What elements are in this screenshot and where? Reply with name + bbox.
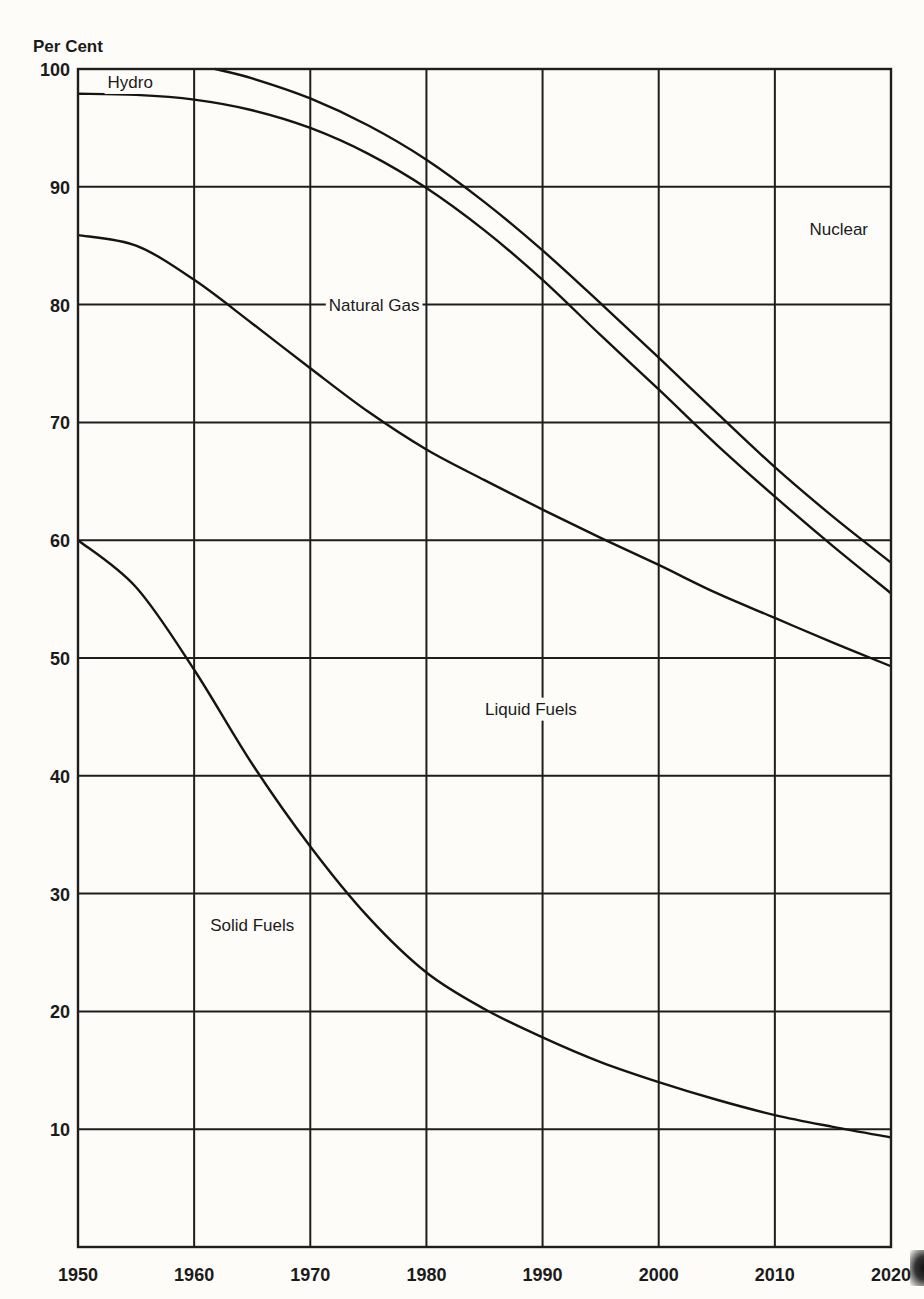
stacked-area-chart: HydroNatural GasNuclearLiquid FuelsSolid… [0, 0, 924, 1299]
y-tick-label: 50 [50, 649, 70, 669]
svg-text:Natural Gas: Natural Gas [329, 296, 420, 315]
x-axis-tick-labels: 19501960197019801990200020102020 [58, 1265, 911, 1285]
solid-fuels-upper-boundary-line [78, 540, 891, 1137]
x-tick-label: 1950 [58, 1265, 98, 1285]
region-label-liquid-fuels: Liquid Fuels [482, 698, 580, 721]
y-tick-label: 60 [50, 531, 70, 551]
x-tick-label: 2020 [871, 1265, 911, 1285]
x-tick-label: 2010 [755, 1265, 795, 1285]
svg-text:Nuclear: Nuclear [809, 220, 868, 239]
gridlines [78, 69, 891, 1247]
x-tick-label: 1980 [406, 1265, 446, 1285]
page-edge-shadow [910, 1250, 924, 1286]
x-tick-label: 1990 [523, 1265, 563, 1285]
region-labels: HydroNatural GasNuclearLiquid FuelsSolid… [105, 71, 872, 937]
hydro-upper-boundary-line [215, 69, 891, 563]
x-tick-label: 1960 [174, 1265, 214, 1285]
svg-text:Solid Fuels: Solid Fuels [210, 916, 294, 935]
region-label-solid-fuels: Solid Fuels [207, 914, 297, 937]
y-axis-tick-labels: 102030405060708090100 [40, 60, 70, 1140]
y-tick-label: 40 [50, 767, 70, 787]
y-axis-title: Per Cent [33, 37, 103, 56]
y-tick-label: 90 [50, 178, 70, 198]
x-tick-label: 2000 [639, 1265, 679, 1285]
region-label-natural-gas: Natural Gas [326, 294, 423, 317]
liquid-fuels-upper-boundary-line [78, 235, 891, 666]
svg-text:Liquid Fuels: Liquid Fuels [485, 700, 577, 719]
region-label-hydro: Hydro [105, 71, 156, 94]
y-tick-label: 100 [40, 60, 70, 80]
y-tick-label: 80 [50, 296, 70, 316]
x-tick-label: 1970 [290, 1265, 330, 1285]
y-tick-label: 30 [50, 885, 70, 905]
natural-gas-upper-boundary-line [78, 94, 891, 593]
y-tick-label: 10 [50, 1120, 70, 1140]
chart: HydroNatural GasNuclearLiquid FuelsSolid… [0, 0, 924, 1299]
y-tick-label: 70 [50, 413, 70, 433]
svg-text:Hydro: Hydro [108, 73, 153, 92]
y-tick-label: 20 [50, 1002, 70, 1022]
boundary-curves [78, 69, 891, 1137]
region-label-nuclear: Nuclear [806, 218, 871, 241]
